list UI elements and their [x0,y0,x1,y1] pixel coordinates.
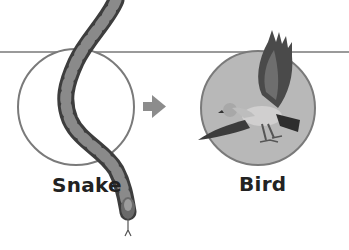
arrow-right-icon [143,95,166,118]
bird-label: Bird [239,172,286,196]
food-chain-graphic [0,0,349,250]
snake-label: Snake [52,173,122,197]
